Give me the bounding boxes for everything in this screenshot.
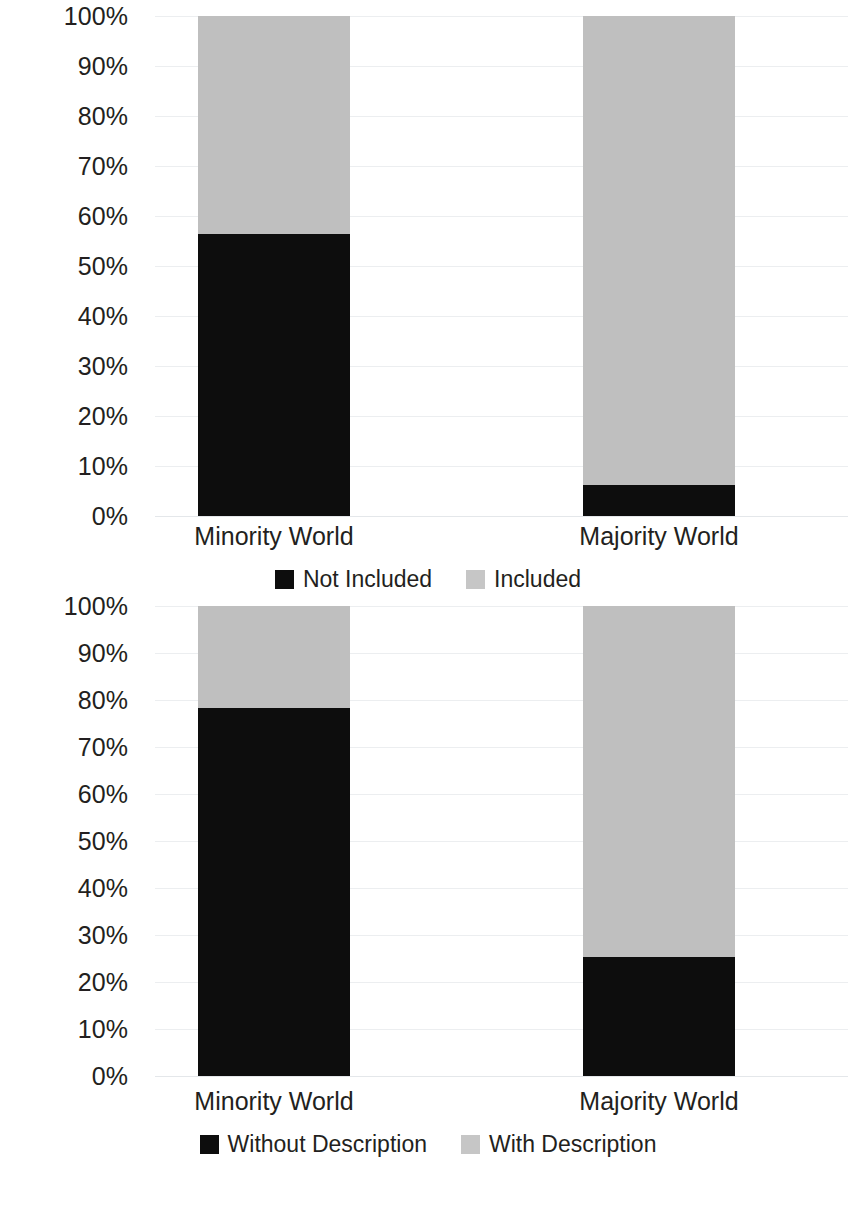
category-label-majority-world: Majority World [529, 521, 789, 551]
legend-item-without-description[interactable]: Without Description [200, 1133, 427, 1156]
bar-segment-dark[interactable] [583, 957, 735, 1076]
category-labels-chart-1: Minority World Majority World [0, 515, 856, 557]
legend-item-not-included[interactable]: Not Included [275, 568, 432, 591]
y-axis-tick-label: 60% [0, 782, 128, 807]
legend-label-without-description: Without Description [228, 1133, 427, 1156]
y-axis-tick-label: 100% [0, 4, 128, 29]
bar-segment-light[interactable] [198, 16, 350, 234]
legend-item-included[interactable]: Included [466, 568, 581, 591]
legend-chart-1: Not Included Included [0, 557, 856, 601]
plot-area-chart-1: 100%90%80%70%60%50%40%30%20%10%0% [0, 0, 856, 515]
bar-segment-light[interactable] [583, 16, 735, 485]
y-axis-tick-label: 50% [0, 829, 128, 854]
bars-chart-2 [155, 600, 848, 1080]
y-axis-tick-label: 40% [0, 304, 128, 329]
y-axis-tick-label: 60% [0, 204, 128, 229]
y-axis-tick-label: 20% [0, 970, 128, 995]
y-axis-tick-label: 100% [0, 594, 128, 619]
category-label-minority-world: Minority World [144, 521, 404, 551]
y-axis-tick-label: 80% [0, 688, 128, 713]
category-label-majority-world-2: Majority World [529, 1086, 789, 1116]
y-axis-tick-label: 30% [0, 923, 128, 948]
bars-chart-1 [155, 0, 848, 515]
y-axis-tick-label: 40% [0, 876, 128, 901]
legend-swatch-icon-not-included [275, 570, 294, 589]
category-labels-chart-2: Minority World Majority World [0, 1080, 856, 1122]
stacked-bar[interactable] [198, 16, 350, 516]
y-axis-tick-label: 30% [0, 354, 128, 379]
inclusion-chart: 100%90%80%70%60%50%40%30%20%10%0% Minori… [0, 0, 856, 600]
legend-label-with-description: With Description [489, 1133, 656, 1156]
y-axis-tick-label: 90% [0, 641, 128, 666]
plot-area-chart-2: 100%90%80%70%60%50%40%30%20%10%0% [0, 600, 856, 1080]
y-axis-tick-label: 20% [0, 404, 128, 429]
y-axis-tick-label: 50% [0, 254, 128, 279]
y-axis-tick-label: 80% [0, 104, 128, 129]
stacked-bar[interactable] [583, 16, 735, 516]
legend-chart-2: Without Description With Description [0, 1122, 856, 1166]
legend-swatch-icon-with-description [461, 1135, 480, 1154]
bar-segment-light[interactable] [583, 606, 735, 957]
y-axis-tick-label: 70% [0, 735, 128, 760]
description-chart: 100%90%80%70%60%50%40%30%20%10%0% Minori… [0, 600, 856, 1212]
y-axis-tick-label: 10% [0, 454, 128, 479]
stacked-bar[interactable] [198, 606, 350, 1076]
y-axis-chart-1: 100%90%80%70%60%50%40%30%20%10%0% [0, 0, 128, 515]
category-label-minority-world-2: Minority World [144, 1086, 404, 1116]
y-axis-tick-label: 10% [0, 1017, 128, 1042]
legend-item-with-description[interactable]: With Description [461, 1133, 656, 1156]
legend-label-not-included: Not Included [303, 568, 432, 591]
bar-segment-light[interactable] [198, 606, 350, 708]
stacked-bar[interactable] [583, 606, 735, 1076]
y-axis-chart-2: 100%90%80%70%60%50%40%30%20%10%0% [0, 600, 128, 1080]
bar-segment-dark[interactable] [583, 485, 735, 517]
legend-label-included: Included [494, 568, 581, 591]
y-axis-tick-label: 70% [0, 154, 128, 179]
legend-swatch-icon-without-description [200, 1135, 219, 1154]
y-axis-tick-label: 90% [0, 54, 128, 79]
bar-segment-dark[interactable] [198, 234, 350, 517]
legend-swatch-icon-included [466, 570, 485, 589]
bar-segment-dark[interactable] [198, 708, 350, 1076]
